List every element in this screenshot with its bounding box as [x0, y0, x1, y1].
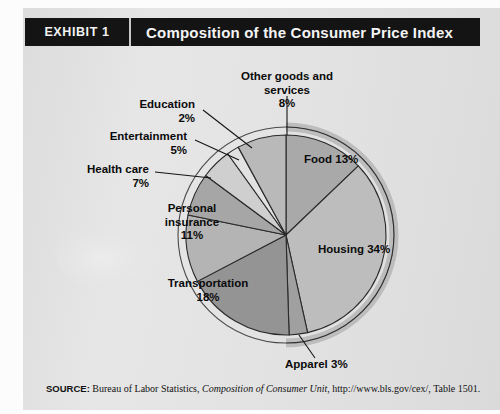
label-personal-insurance-line1: Personal — [168, 202, 217, 214]
source-prefix: SOURCE: — [46, 383, 90, 394]
label-apparel: Apparel 3% — [285, 358, 348, 372]
label-housing: Housing 34% — [318, 243, 390, 257]
label-other-pct: 8% — [279, 97, 296, 109]
label-transportation-name: Transportation — [168, 277, 249, 289]
label-health-care: Health care 7% — [25, 163, 149, 190]
exhibit-header: EXHIBIT 1 Composition of the Consumer Pr… — [25, 18, 480, 46]
label-food: Food 13% — [304, 153, 358, 167]
exhibit-number-label: EXHIBIT 1 — [25, 25, 129, 39]
label-entertainment: Entertainment 5% — [35, 130, 187, 157]
label-health-care-name: Health care — [87, 163, 149, 175]
label-other-goods: Other goods and services 8% — [219, 70, 355, 111]
label-entertainment-name: Entertainment — [110, 130, 187, 142]
label-personal-insurance-line2: insurance — [165, 216, 219, 228]
label-education: Education 2% — [55, 98, 195, 125]
top-margin — [0, 0, 500, 8]
exhibit-figure: EXHIBIT 1 Composition of the Consumer Pr… — [0, 0, 500, 414]
label-personal-insurance-pct: 11% — [181, 229, 203, 241]
label-other-line2: services — [264, 84, 310, 96]
label-personal-insurance: Personal insurance 11% — [142, 202, 242, 243]
pie-chart: Other goods and services 8% Education 2%… — [25, 50, 480, 365]
label-other-line1: Other goods and — [241, 70, 333, 82]
label-entertainment-pct: 5% — [170, 144, 187, 156]
label-transportation: Transportation 18% — [146, 277, 270, 304]
label-transportation-pct: 18% — [196, 291, 219, 303]
label-education-name: Education — [139, 98, 195, 110]
label-health-care-pct: 7% — [132, 177, 149, 189]
leader-healthcare — [155, 172, 211, 178]
left-margin — [0, 0, 23, 414]
source-text-after: , http://www.bls.gov/cex/, Table 1501. — [327, 383, 480, 394]
source-text-before: Bureau of Labor Statistics, — [90, 383, 202, 394]
label-education-pct: 2% — [178, 112, 195, 124]
source-publication: Composition of Consumer Unit — [202, 383, 327, 394]
leader-education — [203, 110, 252, 148]
source-note: SOURCE: Bureau of Labor Statistics, Comp… — [46, 383, 480, 394]
exhibit-title: Composition of the Consumer Price Index — [131, 24, 453, 41]
